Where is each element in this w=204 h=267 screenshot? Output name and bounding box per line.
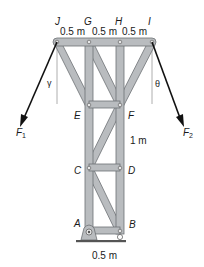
- ground-line: [76, 240, 126, 242]
- force-label-F1-subscript: 1: [22, 132, 26, 139]
- joint-label-F: F: [128, 111, 134, 121]
- joint-label-I: I: [148, 17, 151, 27]
- force-label-F2: F2: [183, 128, 193, 139]
- roller-support-B: [117, 234, 122, 239]
- member-top-chord: [53, 38, 156, 46]
- joint-label-A: A: [74, 219, 81, 229]
- dimension-top-span-1: 0.5 m: [60, 27, 85, 37]
- member-left-column: [85, 40, 93, 234]
- force-label-F1: F1: [16, 128, 26, 139]
- joint-label-B: B: [129, 220, 136, 230]
- dimension-panel-height: 1 m: [130, 136, 147, 146]
- joint-label-D: D: [128, 166, 135, 176]
- truss-drawing: [0, 0, 204, 267]
- member-EF: [89, 101, 120, 108]
- pin-D: [118, 166, 122, 170]
- dimension-base-width: 0.5 m: [92, 251, 117, 261]
- pin-G: [87, 40, 91, 44]
- angle-label-gamma: γ: [47, 79, 52, 88]
- member-CD: [89, 164, 120, 171]
- pin-F: [118, 103, 122, 107]
- pin-H: [118, 40, 122, 44]
- angle-label-theta: θ: [155, 80, 160, 89]
- force-label-F2-subscript: 2: [189, 132, 193, 139]
- pin-E: [87, 103, 91, 107]
- pin-C: [87, 166, 91, 170]
- dimension-top-span-2: 0.5 m: [92, 27, 117, 37]
- joint-label-C: C: [74, 166, 81, 176]
- joint-label-E: E: [74, 111, 81, 121]
- joint-label-G: G: [84, 17, 92, 27]
- pin-B: [118, 229, 122, 233]
- dimension-top-span-3: 0.5 m: [122, 27, 147, 37]
- member-right-column: [116, 40, 124, 234]
